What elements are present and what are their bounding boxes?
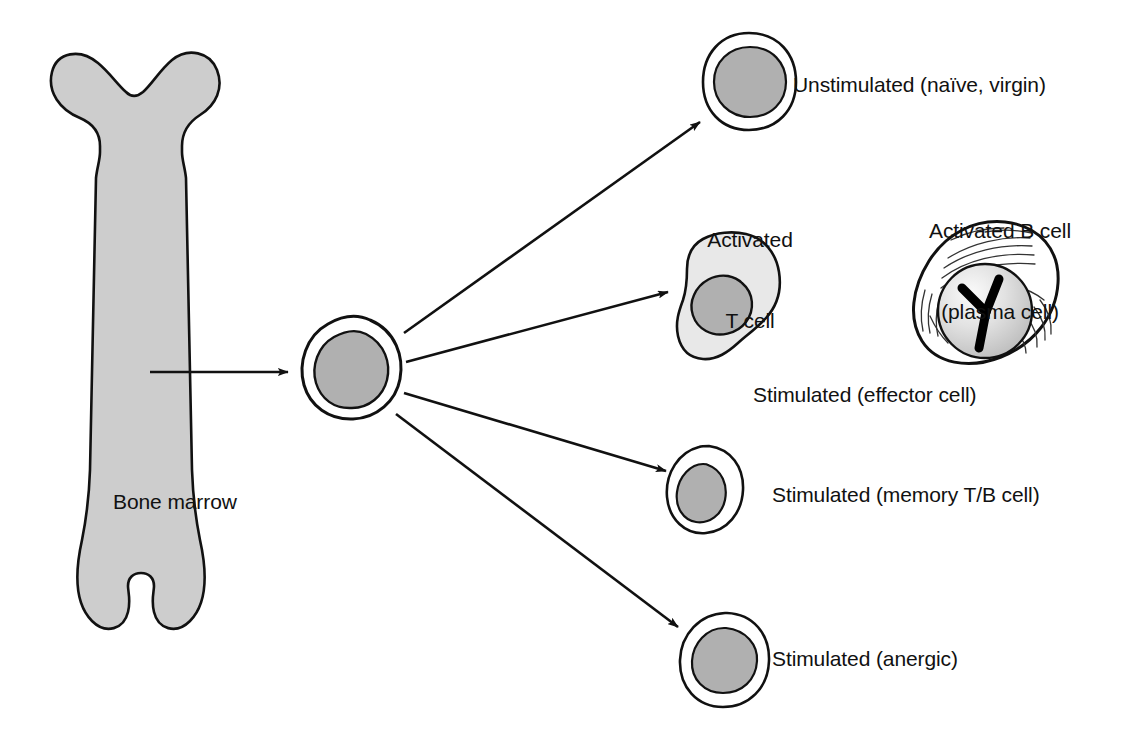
unstimulated-lymphocyte bbox=[703, 33, 796, 130]
arrow-stem-to-memory bbox=[404, 393, 666, 471]
arrow-stem-to-anergic bbox=[396, 414, 678, 627]
label-effector-cell: Stimulated (effector cell) bbox=[753, 381, 976, 408]
anergic-cell-nucleus bbox=[692, 628, 757, 693]
stem-cell-nucleus bbox=[314, 331, 388, 408]
label-unstimulated-cell: Unstimulated (naïve, virgin) bbox=[793, 71, 1046, 98]
arrow-stem-to-naive bbox=[404, 122, 700, 333]
differentiation-diagram: Bone marrow Unstimulated (naïve, virgin)… bbox=[0, 0, 1143, 733]
label-memory-cell: Stimulated (memory T/B cell) bbox=[772, 481, 1040, 508]
long-bone bbox=[51, 53, 220, 629]
label-activated-t-line2: T cell bbox=[707, 307, 792, 334]
memory-lymphocyte bbox=[667, 446, 743, 533]
bone-outline bbox=[51, 53, 220, 629]
label-activated-t-line1: Activated bbox=[707, 226, 792, 253]
stem-cell bbox=[302, 317, 401, 420]
label-activated-b-line1: Activated B cell bbox=[929, 217, 1071, 244]
label-activated-b-line2: (plasma cell) bbox=[929, 298, 1071, 325]
naive-cell-nucleus bbox=[714, 47, 786, 117]
anergic-lymphocyte bbox=[680, 613, 769, 707]
label-bone-marrow: Bone marrow bbox=[113, 488, 237, 515]
label-activated-b-cell: Activated B cell (plasma cell) bbox=[929, 163, 1071, 379]
label-activated-t-cell: Activated T cell bbox=[707, 172, 792, 388]
label-anergic-cell: Stimulated (anergic) bbox=[772, 645, 958, 672]
